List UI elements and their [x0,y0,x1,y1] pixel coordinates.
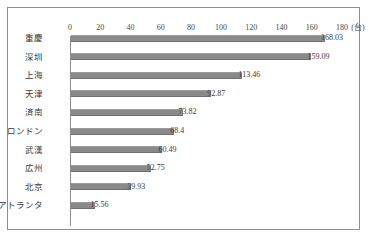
bar-row: 北京39.93 [8,178,353,196]
bar [71,53,311,60]
bar-value-label: 113.46 [238,66,260,84]
category-label: 北京 [0,178,43,196]
bar-value-label: 68.4 [170,122,184,140]
chart-frame: 020406080100120140160180(台) 重慶168.03深圳15… [7,7,360,230]
bar-row: ロンドン68.4 [8,122,353,140]
bar [71,72,242,79]
bar-row: 上海113.46 [8,66,353,84]
bar [71,128,174,135]
bar [71,165,151,172]
bar-row: 武漢60.49 [8,141,353,159]
category-label: 武漢 [0,141,43,159]
bar-value-label: 52.75 [147,159,165,177]
bar-value-label: 159.09 [307,48,329,66]
bar-row: アトランタ15.56 [8,196,353,214]
category-label: 上海 [0,66,43,84]
category-label: ロンドン [0,122,43,140]
bar-row: 深圳159.09 [8,48,353,66]
bar [71,146,162,153]
x-axis-unit-label: (台) [351,20,364,36]
bar-chart-figure: 020406080100120140160180(台) 重慶168.03深圳15… [0,0,368,240]
bar [71,183,131,190]
bar [71,90,211,97]
category-label: アトランタ [0,196,43,214]
bar-value-label: 60.49 [158,141,176,159]
bar-row: 重慶168.03 [8,29,353,47]
bar-row: 広州52.75 [8,159,353,177]
bar-value-label: 39.93 [127,178,145,196]
bar-value-label: 168.03 [321,29,343,47]
category-label: 天津 [0,85,43,103]
category-label: 重慶 [0,29,43,47]
bar-value-label: 15.56 [91,196,109,214]
bar [71,35,325,42]
category-label: 済南 [0,103,43,121]
bar-row: 済南73.82 [8,103,353,121]
bar-value-label: 92.87 [207,85,225,103]
bar [71,109,183,116]
category-label: 深圳 [0,48,43,66]
category-label: 広州 [0,159,43,177]
bar-value-label: 73.82 [179,103,197,121]
bar-row: 天津92.87 [8,85,353,103]
